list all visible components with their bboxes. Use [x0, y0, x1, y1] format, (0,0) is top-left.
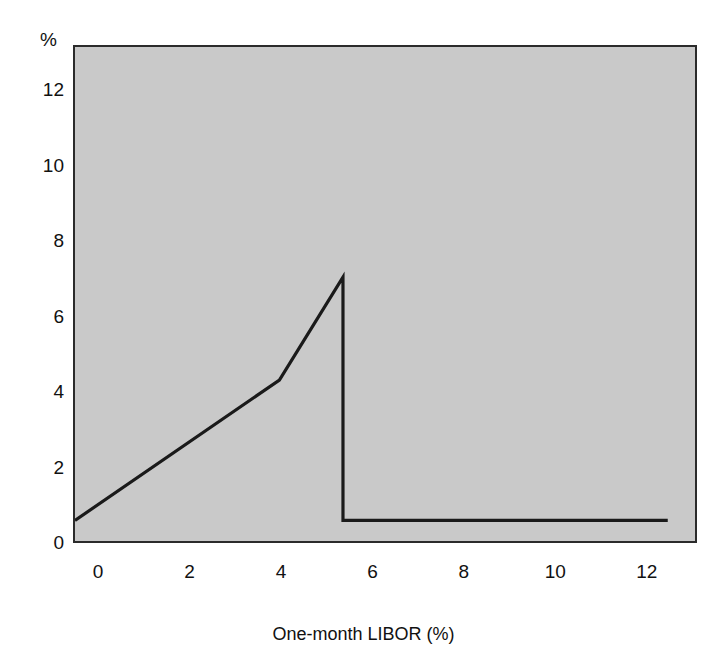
y-tick-label-10: 10 [18, 156, 64, 175]
x-tick-label-2: 2 [184, 562, 195, 581]
y-tick-label-2: 2 [18, 458, 64, 477]
data-series-line [75, 277, 668, 520]
plot-canvas [75, 47, 695, 541]
y-tick-label-8: 8 [18, 231, 64, 250]
x-tick-label-10: 10 [545, 562, 566, 581]
x-tick-label-4: 4 [276, 562, 287, 581]
y-tick-label-6: 6 [18, 307, 64, 326]
y-tick-label-4: 4 [18, 382, 64, 401]
chart-figure: % 024681012 024681012 One-month LIBOR (%… [0, 0, 727, 668]
y-tick-label-0: 0 [18, 533, 64, 552]
x-tick-label-8: 8 [459, 562, 470, 581]
x-tick-label-0: 0 [93, 562, 104, 581]
x-axis-title: One-month LIBOR (%) [0, 624, 727, 644]
x-tick-label-12: 12 [636, 562, 657, 581]
x-tick-label-6: 6 [367, 562, 378, 581]
x-axis-tick-labels: 024681012 [0, 562, 727, 588]
y-tick-label-12: 12 [18, 80, 64, 99]
plot-area [73, 45, 697, 543]
